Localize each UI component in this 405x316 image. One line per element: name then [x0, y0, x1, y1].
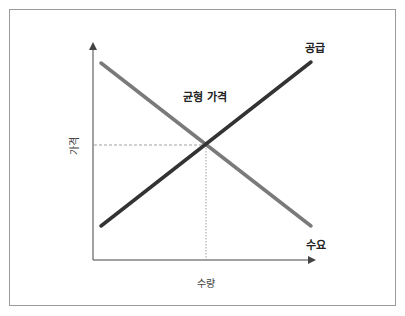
x-axis-label: 수량	[197, 275, 215, 290]
equilibrium-price-label: 균형 가격	[183, 88, 227, 104]
supply-demand-chart	[0, 0, 405, 316]
demand-label: 수요	[306, 236, 326, 252]
supply-label: 공급	[305, 39, 325, 55]
y-axis-label: 가격	[66, 137, 81, 155]
